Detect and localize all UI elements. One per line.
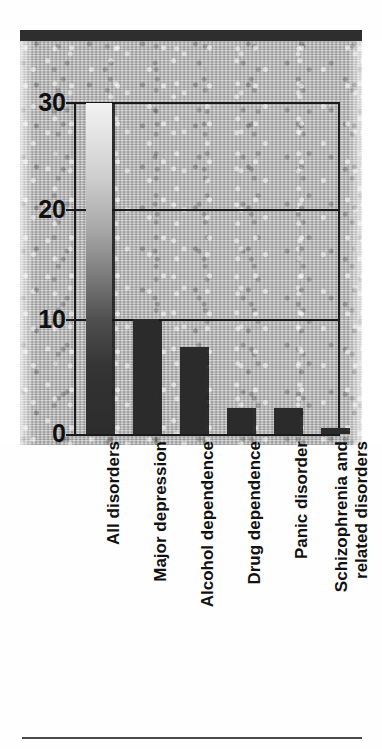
figure-top-rule: [20, 30, 362, 41]
x-label-schizophrenia-line2: related disorders: [352, 441, 371, 579]
gridline-10: [74, 319, 340, 321]
bar-schizophrenia: [321, 428, 347, 434]
y-tick-label-10: 10: [18, 307, 66, 332]
plot-right-edge: [338, 102, 340, 435]
x-axis-line: [74, 434, 340, 436]
bar-major-depression: [133, 319, 159, 434]
gridline-30: [74, 102, 340, 104]
y-axis-line: [74, 102, 76, 435]
y-tick-label-30: 30: [18, 90, 66, 115]
y-tick-label-20: 20: [18, 197, 66, 222]
gridline-20: [74, 209, 340, 211]
figure-container: 30 20 10 0 All disorders Major depressio…: [0, 0, 382, 749]
bar-alcohol-dependence: [180, 347, 206, 434]
x-label-alcohol-dependence: Alcohol dependence: [198, 441, 217, 607]
plot-area: [74, 103, 340, 434]
figure-bottom-rule: [22, 737, 362, 739]
x-label-panic-disorder: Panic disorder: [292, 441, 311, 559]
x-label-major-depression: Major depression: [151, 441, 170, 582]
y-axis-tick-labels: 30 20 10 0: [14, 103, 66, 434]
x-axis-category-labels: All disorders Major depression Alcohol d…: [74, 441, 340, 656]
bar-panic-disorder: [274, 408, 300, 434]
x-label-drug-dependence: Drug dependence: [245, 441, 264, 585]
bar-all-disorders: [86, 103, 112, 434]
x-label-all-disorders: All disorders: [104, 441, 123, 545]
x-label-schizophrenia-line1: Schizophrenia and: [332, 441, 351, 592]
y-tick-label-0: 0: [18, 421, 66, 446]
bar-drug-dependence: [227, 408, 253, 434]
